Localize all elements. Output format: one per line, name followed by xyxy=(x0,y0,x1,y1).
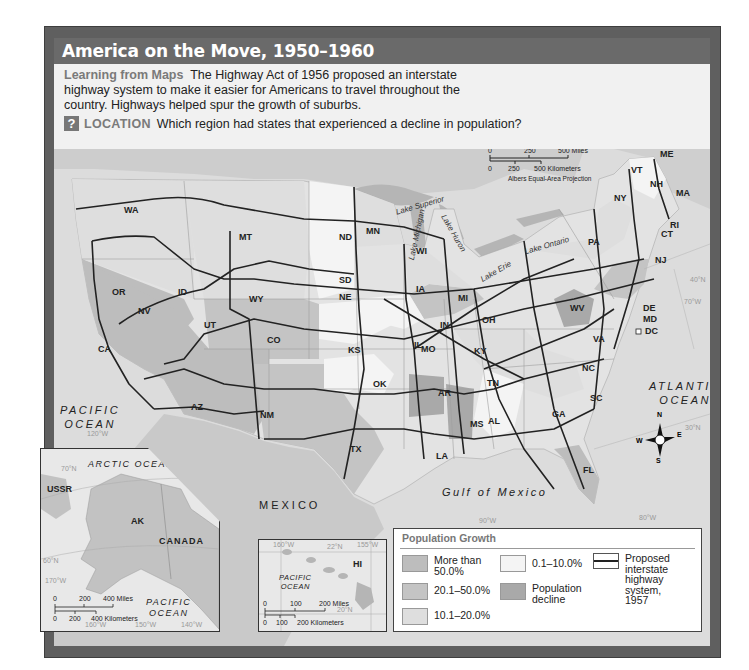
state-label-ks: KS xyxy=(348,345,361,355)
state-label-sc: SC xyxy=(590,393,603,403)
state-label-ut: UT xyxy=(204,320,216,330)
state-label-tn: TN xyxy=(487,378,499,388)
legend-item-0-10: 0.1–10.0% xyxy=(500,555,582,572)
legend-label-line2: 50.0% xyxy=(434,565,464,577)
compass-s: S xyxy=(656,457,661,464)
alaska-pacific-line-1: PACIFIC xyxy=(146,597,191,608)
label-ussr: USSR xyxy=(47,484,72,494)
state-label-ga: GA xyxy=(552,409,566,419)
state-label-mt: MT xyxy=(239,232,252,242)
atlantic-line-1: ATLANTIC xyxy=(649,379,710,393)
atlantic-line-2: OCEAN xyxy=(649,393,710,407)
ak-scale-miles-200: 200 xyxy=(79,595,91,602)
legend-item-over-50: More than 50.0% xyxy=(402,555,481,577)
compass-n: N xyxy=(657,411,662,418)
state-label-de: DE xyxy=(643,303,656,313)
scale-km-250: 250 xyxy=(508,165,520,172)
state-label-co: CO xyxy=(267,335,281,345)
legend-swatch xyxy=(500,583,526,600)
degree-140w: 140°W xyxy=(181,621,202,628)
scale-km-0: 0 xyxy=(488,165,492,172)
ak-scale-km-0: 0 xyxy=(53,615,57,622)
alaska-pacific-line-2: OCEAN xyxy=(146,608,191,619)
degree-40n: 40°N xyxy=(690,276,706,283)
state-label-ak: AK xyxy=(131,516,144,526)
state-label-mi: MI xyxy=(458,293,468,303)
legend-swatch xyxy=(402,555,428,572)
degree-150w: 150°W xyxy=(135,621,156,628)
scale-km-500: 500 Kilometers xyxy=(534,165,581,172)
degree-22n: 22°N xyxy=(327,543,343,550)
state-label-dc: DC xyxy=(645,326,658,336)
state-label-tx: TX xyxy=(350,444,362,454)
state-label-nc: NC xyxy=(582,363,595,373)
question-label: LOCATION xyxy=(84,117,151,131)
scale-miles-0: 0 xyxy=(488,149,492,154)
label-pacific-ocean: PACIFIC OCEAN xyxy=(60,403,120,431)
degree-20n: 20°N xyxy=(337,606,353,613)
state-label-or: OR xyxy=(112,287,126,297)
legend-title: Population Growth xyxy=(402,532,496,544)
state-label-nm: NM xyxy=(260,410,274,420)
hawaii-pacific-line-1: PACIFIC xyxy=(279,573,312,582)
scale-projection: Albers Equal-Area Projection xyxy=(508,175,591,182)
legend-label: More than 50.0% xyxy=(434,555,481,577)
state-label-pa: PA xyxy=(588,237,600,247)
state-label-ny: NY xyxy=(614,193,627,203)
state-label-ne: NE xyxy=(339,292,352,302)
intro-lead: Learning from Maps xyxy=(64,68,183,82)
degree-170w: 170°W xyxy=(45,577,66,584)
pacific-line-2: OCEAN xyxy=(60,417,120,431)
state-label-in: IN xyxy=(440,320,449,330)
compass-rose-icon: N S W E xyxy=(640,417,680,463)
location-question: ? LOCATION Which region had states that … xyxy=(64,116,522,131)
state-label-oh: OH xyxy=(482,315,496,325)
compass-e: E xyxy=(677,431,682,438)
state-label-ms: MS xyxy=(470,419,484,429)
label-canada-inset: CANADA xyxy=(159,536,204,546)
hawaii-inset: 160°W 22°N 155°W 20°N HI PACIFIC OCEAN 0… xyxy=(258,539,387,632)
scale-miles-250: 250 xyxy=(524,149,536,154)
label-pacific-ocean-alaska: PACIFIC OCEAN xyxy=(146,597,191,619)
legend-item-10-20: 10.1–20.0% xyxy=(402,608,490,625)
legend-swatch xyxy=(402,583,428,600)
legend-swatch xyxy=(402,608,428,625)
ak-scale-miles-0: 0 xyxy=(53,595,57,602)
label-atlantic-ocean: ATLANTIC OCEAN xyxy=(649,379,710,407)
legend-label: 10.1–20.0% xyxy=(434,610,490,621)
state-label-nd: ND xyxy=(339,232,352,242)
legend: Population Growth More than 50.0% 20.1–5… xyxy=(393,528,702,632)
state-label-fl: FL xyxy=(583,465,594,475)
intro-panel: Learning from Maps The Highway Act of 19… xyxy=(54,64,710,149)
state-label-nv: NV xyxy=(138,306,151,316)
legend-label: 0.1–10.0% xyxy=(532,558,582,569)
legend-divider xyxy=(400,548,695,549)
state-label-ia: IA xyxy=(416,284,425,294)
label-pacific-ocean-hawaii: PACIFIC OCEAN xyxy=(279,573,312,591)
legend-item-highway: Proposed interstate highway system, 1957 xyxy=(593,553,701,606)
degree-155w: 155°W xyxy=(357,541,378,548)
highway-line-icon xyxy=(593,553,619,569)
degree-160w: 160°W xyxy=(85,621,106,628)
hi-scale-km-200: 200 Kilometers xyxy=(297,619,344,626)
degree-120w: 120°W xyxy=(87,430,108,437)
state-label-ok: OK xyxy=(373,379,387,389)
ak-scale-km-400: 400 Kilometers xyxy=(91,615,138,622)
state-label-mo: MO xyxy=(421,344,436,354)
hawaii-pacific-line-2: OCEAN xyxy=(279,582,312,591)
state-label-vt: VT xyxy=(631,165,643,175)
degree-60n: 60°N xyxy=(43,557,59,564)
legend-item-decline: Population decline xyxy=(500,583,582,605)
state-label-hi: HI xyxy=(353,559,362,569)
compass-w: W xyxy=(636,437,643,444)
hi-scale-miles-200: 200 Miles xyxy=(319,600,349,607)
pacific-line-1: PACIFIC xyxy=(60,403,120,417)
state-label-md: MD xyxy=(643,314,657,324)
hi-scale-miles-0: 0 xyxy=(263,600,267,607)
legend-label: Proposed interstate highway system, 1957 xyxy=(625,553,701,606)
state-label-wa: WA xyxy=(124,205,139,215)
state-label-me: ME xyxy=(660,149,674,159)
state-label-nh: NH xyxy=(650,179,663,189)
question-text: Which region had states that experienced… xyxy=(157,117,522,131)
highway-label-line3: highway system, xyxy=(625,573,664,596)
